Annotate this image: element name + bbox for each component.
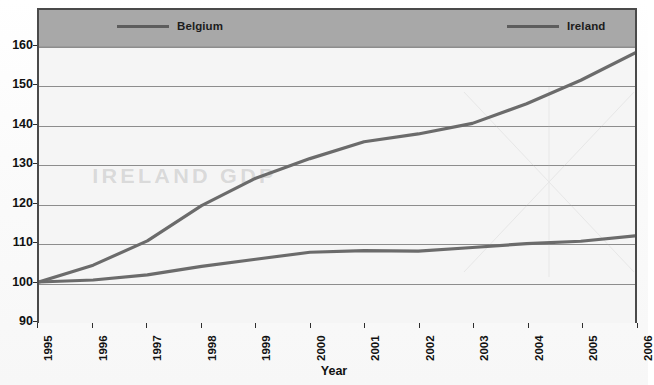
x-tick-label-2002: 2002 — [424, 335, 436, 361]
x-axis-title: Year — [0, 364, 648, 378]
x-tick-label-1995: 1995 — [42, 335, 54, 361]
x-tick-mark-1996 — [92, 323, 93, 328]
series-lines — [39, 47, 635, 321]
x-tick-label-2001: 2001 — [369, 335, 381, 361]
x-tick-label-1996: 1996 — [97, 335, 109, 361]
x-tick-mark-2002 — [419, 323, 420, 328]
chart-legend: Belgium Ireland — [39, 10, 635, 47]
x-tick-mark-2005 — [582, 323, 583, 328]
y-tick-label-140: 140 — [12, 118, 33, 131]
plot-area: IRELAND GDP — [39, 47, 635, 323]
y-tick-label-130: 130 — [12, 157, 33, 170]
x-tick-mark-1997 — [146, 323, 147, 328]
y-tick-label-90: 90 — [19, 315, 33, 328]
x-tick-mark-2003 — [473, 323, 474, 328]
x-tick-mark-1998 — [201, 323, 202, 328]
y-tick-label-150: 150 — [12, 78, 33, 91]
x-tick-mark-1999 — [255, 323, 256, 328]
x-axis-title-label: Year — [321, 364, 347, 378]
x-tick-mark-2001 — [364, 323, 365, 328]
legend-label-belgium: Belgium — [177, 20, 223, 32]
x-tick-label-2004: 2004 — [533, 335, 545, 361]
x-tick-mark-1995 — [37, 323, 38, 328]
x-tick-mark-2006 — [637, 323, 638, 328]
y-tick-label-110: 110 — [13, 236, 33, 249]
x-tick-label-2000: 2000 — [315, 335, 327, 361]
line-series-belgium — [39, 236, 635, 282]
legend-line-belgium-icon — [117, 25, 169, 28]
x-tick-label-1997: 1997 — [151, 335, 163, 361]
line-series-ireland — [39, 53, 635, 282]
x-tick-mark-2000 — [310, 323, 311, 328]
x-tick-label-1999: 1999 — [260, 335, 272, 361]
y-axis: 90100110120130140150160 — [0, 0, 33, 385]
legend-label-ireland: Ireland — [567, 20, 605, 32]
legend-item-belgium: Belgium — [117, 20, 223, 32]
y-tick-label-100: 100 — [12, 275, 33, 288]
x-tick-label-1998: 1998 — [206, 335, 218, 361]
x-tick-label-2003: 2003 — [478, 335, 490, 361]
legend-line-ireland-icon — [507, 25, 559, 28]
x-tick-mark-2004 — [528, 323, 529, 328]
x-tick-label-2005: 2005 — [587, 335, 599, 361]
y-tick-label-120: 120 — [12, 196, 33, 209]
chart-figure: Belgium Ireland IRELAND GDP — [37, 8, 637, 323]
y-tick-label-160: 160 — [12, 39, 33, 52]
x-tick-label-2006: 2006 — [642, 335, 654, 361]
legend-item-ireland: Ireland — [507, 20, 605, 32]
